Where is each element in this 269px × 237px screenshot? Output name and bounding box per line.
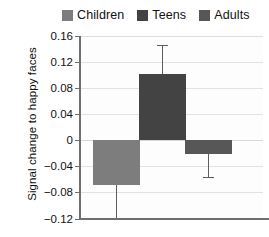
y-tick-label-neg0.04: −0.04 — [44, 160, 73, 172]
error-bar-stem-children — [116, 185, 117, 220]
bar-chart-figure: Children Teens Adults Signal change to h… — [0, 0, 269, 237]
gridline-neg0.08 — [79, 192, 263, 193]
gridline-0.16 — [79, 36, 263, 37]
bar-adults — [185, 140, 232, 154]
legend-swatch-adults-icon — [199, 10, 210, 21]
chart-legend: Children Teens Adults — [62, 6, 269, 24]
y-tick-mark-neg0.08 — [75, 192, 79, 193]
bar-teens — [139, 74, 186, 140]
legend-label-adults: Adults — [214, 9, 249, 22]
y-tick-label-neg0.12: −0.12 — [44, 213, 73, 225]
y-tick-mark-neg0.12 — [75, 219, 79, 220]
y-tick-label-0: 0 — [67, 134, 73, 146]
y-axis-title: Signal change to happy faces — [26, 29, 38, 219]
legend-entry-children: Children — [62, 9, 124, 22]
y-axis-spine — [79, 36, 81, 220]
y-tick-mark-neg0.04 — [75, 166, 79, 167]
legend-entry-teens: Teens — [137, 9, 186, 22]
legend-label-children: Children — [77, 9, 124, 22]
y-tick-label-neg0.08: −0.08 — [44, 186, 73, 198]
legend-swatch-teens-icon — [137, 10, 148, 21]
gridline-0.12 — [79, 62, 263, 63]
y-tick-label-0.16: 0.16 — [51, 30, 73, 42]
plot-area: 0.16 0.12 0.08 0.04 0 −0.04 −0.08 −0.12 — [79, 36, 263, 220]
legend-entry-adults: Adults — [199, 9, 249, 22]
legend-label-teens: Teens — [152, 9, 186, 22]
y-tick-label-0.08: 0.08 — [51, 82, 73, 94]
bar-children — [93, 140, 140, 185]
y-tick-label-0.12: 0.12 — [51, 56, 73, 68]
error-bar-stem-teens — [162, 45, 163, 74]
y-tick-label-0.04: 0.04 — [51, 108, 73, 120]
error-bar-stem-adults — [208, 154, 209, 178]
x-axis-spine — [79, 218, 269, 220]
y-tick-mark-0.12 — [75, 62, 79, 63]
y-tick-mark-0.16 — [75, 36, 79, 37]
error-bar-cap-adults — [203, 177, 214, 178]
legend-swatch-children-icon — [62, 10, 73, 21]
y-tick-mark-0 — [75, 140, 79, 141]
error-bar-cap-teens — [157, 45, 168, 46]
y-tick-mark-0.08 — [75, 88, 79, 89]
y-tick-mark-0.04 — [75, 114, 79, 115]
